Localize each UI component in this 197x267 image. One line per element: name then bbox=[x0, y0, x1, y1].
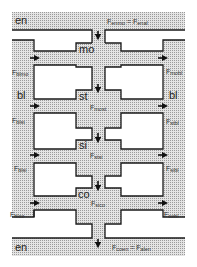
flux-sico: Fsico bbox=[91, 200, 105, 209]
flux-blmo: Fblmo bbox=[12, 69, 28, 78]
flux-sibl: Fsibl bbox=[166, 165, 179, 174]
flux-stsi: Fstsi bbox=[90, 152, 103, 161]
label-blood-left: bl bbox=[17, 90, 26, 101]
right-blood-column bbox=[163, 40, 185, 217]
label-bottom-env: en bbox=[15, 242, 27, 253]
label-stomach: st bbox=[79, 91, 88, 102]
flux-most: Fmost bbox=[90, 104, 106, 113]
top-environment-band bbox=[12, 12, 185, 30]
flux-coen: Fcoen = Falen bbox=[112, 244, 151, 253]
flux-mobl: Fmobl bbox=[166, 68, 182, 77]
left-blood-column bbox=[12, 40, 34, 217]
flux-blst: Fblst bbox=[12, 117, 25, 126]
compartment-diagram bbox=[0, 0, 197, 267]
flux-cobl: Fcobl bbox=[164, 211, 178, 220]
label-mouth: mo bbox=[79, 44, 94, 55]
flux-blsi: Fblsi bbox=[14, 165, 27, 174]
label-small-intestine: si bbox=[79, 140, 87, 151]
label-colon: co bbox=[78, 189, 90, 200]
flux-enmo: Fenmo = Fenal bbox=[107, 18, 148, 27]
flux-stbl: Fstbl bbox=[166, 118, 179, 127]
label-top-env: en bbox=[15, 15, 27, 26]
flux-blco: Fblco bbox=[10, 211, 24, 220]
label-blood-right: bl bbox=[169, 90, 178, 101]
